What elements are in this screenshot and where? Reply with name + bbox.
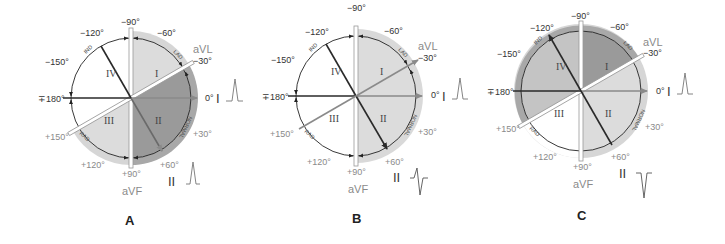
lead-avf-label: aVF [348,183,368,195]
angle-m90: −90° [121,17,140,27]
angle-p30: +30° [418,127,437,137]
lead-avl-label: aVL [193,43,213,55]
lead-avf-label: aVF [573,178,593,190]
angle-p150: +150° [270,129,294,139]
lead-avl-label: aVL [418,40,438,52]
quadrant-II-label: II [605,108,612,119]
lead-i-label: I [667,84,671,99]
angle-m90: −90° [347,3,366,13]
angle-m120: −120° [305,27,329,37]
angle-m150: −150° [497,49,521,59]
hexaxial-figure: IV I III II IND LAD NORMAL RAD −90° −60°… [0,0,725,244]
angle-m30: −30° [643,48,662,58]
angle-m60: −60° [157,28,176,38]
angle-m120: −120° [80,28,104,38]
lead-ii-complex-negative [636,173,652,198]
angle-m150: −150° [45,57,69,67]
angle-m30: −30° [193,56,212,66]
angle-zero: 0° [656,86,665,96]
angle-p90: +90° [122,169,141,179]
angle-m60: −60° [610,22,629,32]
quadrant-III-label: III [104,115,114,126]
angle-p120: +120° [307,157,331,167]
lead-i-complex-upright [677,73,693,94]
panel-c-label: C [577,208,587,223]
angle-m150: −150° [271,55,295,65]
angle-m60: −60° [384,26,403,36]
angle-zero: 0° [431,90,440,100]
angle-p60: +60° [160,160,179,170]
quadrant-III-label: III [329,113,339,124]
quadrant-I-label: I [380,66,383,77]
angle-p90: +90° [573,162,592,172]
quadrant-II-label: II [155,115,162,126]
angle-p30: +30° [645,122,664,132]
lead-ii-complex-biphasic [410,168,428,195]
panel-b: IV I III II IND LAD NORMAL RAD [288,26,423,166]
panel-a-label: A [125,213,135,228]
quadrant-IV-label: IV [556,61,567,72]
angle-p120: +120° [81,160,105,170]
lead-i-label: I [442,89,446,104]
angle-p120: +120° [533,152,557,162]
lead-i-complex-upright [226,79,243,101]
lead-ii-complex-upright [186,162,200,184]
quadrant-I-label: I [605,61,608,72]
angle-pm180: ∓180° [38,94,65,104]
panel-c: IV I III II IND LAD NORMAL RAD [513,21,648,161]
angle-m120: −120° [530,23,554,33]
angle-p150: +150° [496,124,520,134]
angle-pm180: ∓180° [487,87,514,97]
angle-pm180: ∓180° [262,92,289,102]
quadrant-I-label: I [155,68,158,79]
lead-ii-label: II [619,166,626,181]
lead-avl-label: aVL [643,36,663,48]
quadrant-IV-label: IV [106,68,117,79]
angle-p150: +150° [45,132,69,142]
lead-i-label: I [216,91,220,106]
angle-p30: +30° [193,129,212,139]
angle-p90: +90° [347,167,366,177]
lead-i-complex-upright [452,78,468,99]
panel-a: IV I III II IND LAD NORMAL RAD [63,28,198,168]
lead-ii-label: II [393,170,400,185]
quadrant-III-label: III [554,108,564,119]
angle-zero: 0° [205,93,214,103]
angle-m30: −30° [418,53,437,63]
angle-p60: +60° [385,157,404,167]
quadrant-IV-label: IV [331,66,342,77]
quadrant-II-label: II [380,113,387,124]
angle-m90: −90° [571,11,590,21]
panel-b-label: B [352,211,361,226]
angle-p60: +60° [611,152,630,162]
lead-ii-label: II [168,174,175,189]
lead-avf-label: aVF [122,185,142,197]
